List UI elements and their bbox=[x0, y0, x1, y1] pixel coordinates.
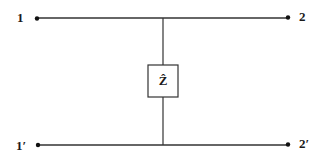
terminal-2-dot bbox=[286, 15, 290, 19]
two-port-network-diagram: 1 2 1′ 2′ Ẑ bbox=[0, 0, 325, 157]
terminal-1-prime-dot bbox=[36, 143, 40, 147]
terminal-1-dot bbox=[35, 16, 39, 20]
terminal-1-label: 1 bbox=[17, 11, 24, 24]
terminal-2-prime-dot bbox=[286, 142, 290, 146]
terminal-2-prime-label: 2′ bbox=[299, 137, 309, 150]
terminal-2-label: 2 bbox=[299, 10, 306, 23]
impedance-label: Ẑ bbox=[148, 74, 178, 87]
terminal-1-prime-label: 1′ bbox=[16, 139, 26, 152]
